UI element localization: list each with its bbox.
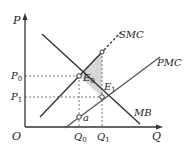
point-smc-q1-marker [100,50,104,54]
y-axis-label: P [12,14,21,27]
point-a-marker [77,115,82,120]
a-label: a [83,112,89,123]
smc-label: SMC [119,29,144,40]
q0-label: Q0 [74,131,87,144]
origin-label: O [12,130,21,143]
pmc-label: PMC [156,57,182,68]
externality-diagram: P Q O SMC PMC MB E0 E1 a P0 P1 Q0 Q1 [0,0,195,154]
p0-label: P0 [10,70,22,83]
x-axis-label: Q [152,130,161,143]
point-e1-marker [100,95,105,100]
y-axis-arrow-icon [23,13,28,20]
q1-label: Q1 [97,131,110,144]
point-e0-marker [77,74,82,79]
p1-label: P1 [10,91,22,104]
x-axis-arrow-icon [156,125,163,130]
mb-label: MB [133,107,152,118]
